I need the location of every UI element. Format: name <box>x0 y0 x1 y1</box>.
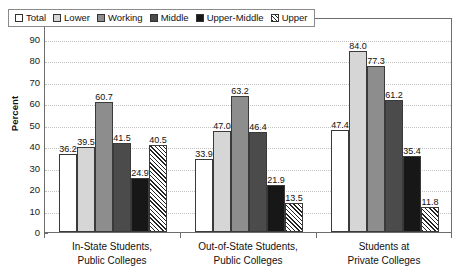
bar-value-label: 11.8 <box>422 197 439 207</box>
bar[interactable]: 60.7 <box>95 102 113 233</box>
category-label-line1: Out-of-State Students, <box>198 241 298 252</box>
bar-value-label: 84.0 <box>349 41 367 51</box>
bar-slot: 47.0 <box>213 17 231 232</box>
x-axis-category-labels: In-State Students,Public CollegesOut-of-… <box>44 240 452 276</box>
legend-item-label: Working <box>108 13 143 23</box>
bar[interactable]: 41.5 <box>113 143 131 232</box>
bar[interactable]: 39.5 <box>77 147 95 232</box>
legend-item-upper[interactable]: Upper <box>271 13 308 23</box>
bar[interactable]: 77.3 <box>367 66 385 232</box>
bar-slot: 39.5 <box>77 17 95 232</box>
bar-value-label: 13.5 <box>285 193 303 203</box>
bar-value-label: 36.2 <box>59 144 77 154</box>
x-axis-tick-mark <box>316 233 317 238</box>
bar-slot: 41.5 <box>113 17 131 232</box>
bar[interactable]: 46.4 <box>249 132 267 232</box>
bar-value-label: 33.9 <box>195 149 213 159</box>
x-axis-category-label: In-State Students,Public Colleges <box>44 240 180 267</box>
bar-groups: 36.239.560.741.524.940.533.947.063.246.4… <box>45 19 451 232</box>
bar-group: 47.484.077.361.235.411.8 <box>317 19 453 232</box>
bar-value-label: 24.9 <box>131 168 149 178</box>
x-axis-ticks <box>44 233 452 239</box>
bar-slot: 77.3 <box>367 17 385 232</box>
bar[interactable]: 35.4 <box>403 156 421 232</box>
legend-item-label: Middle <box>161 13 189 23</box>
bar-slot: 60.7 <box>95 17 113 232</box>
category-label-line2: Public Colleges <box>44 254 180 268</box>
bar-value-label: 47.0 <box>213 121 231 131</box>
y-axis-tick-label: 40 <box>14 142 40 152</box>
bar[interactable]: 84.0 <box>349 51 367 232</box>
bar-slot: 35.4 <box>403 17 421 232</box>
bar[interactable]: 36.2 <box>59 154 77 232</box>
bar[interactable]: 61.2 <box>385 100 403 232</box>
y-axis-tick-label: 0 <box>14 228 40 238</box>
bar-value-label: 35.4 <box>403 146 421 156</box>
x-axis-tick-mark <box>451 233 452 238</box>
y-axis-tick-label: 90 <box>14 35 40 45</box>
bar-slot: 24.9 <box>131 17 149 232</box>
bar-slot: 36.2 <box>59 17 77 232</box>
bar[interactable]: 21.9 <box>267 185 285 232</box>
y-axis-tick-label: 80 <box>14 56 40 66</box>
legend-swatch-icon <box>15 14 23 22</box>
bar-slot: 13.5 <box>285 17 303 232</box>
bar-slot: 40.5 <box>149 17 167 232</box>
bar-value-label: 63.2 <box>231 86 249 96</box>
x-axis-tick-mark <box>44 233 45 238</box>
y-axis-tick-labels: 0102030405060708090100 <box>14 18 40 233</box>
bar-slot: 21.9 <box>267 17 285 232</box>
legend-item-total[interactable]: Total <box>15 13 46 23</box>
category-label-line2: Private Colleges <box>316 254 452 268</box>
bar[interactable]: 13.5 <box>285 203 303 232</box>
y-axis-tick-label: 70 <box>14 78 40 88</box>
y-axis-tick-label: 60 <box>14 99 40 109</box>
y-axis-tick-label: 10 <box>14 207 40 217</box>
bar-slot: 61.2 <box>385 17 403 232</box>
bar-value-label: 61.2 <box>385 90 403 100</box>
x-axis-category-label: Out-of-State Students,Public Colleges <box>180 240 316 267</box>
legend-swatch-icon <box>53 14 61 22</box>
bar-slot: 46.4 <box>249 17 267 232</box>
x-axis-tick-mark <box>180 233 181 238</box>
legend-item-label: Total <box>26 13 46 23</box>
y-axis-tick-label: 50 <box>14 121 40 131</box>
legend-swatch-icon <box>271 14 279 22</box>
bar-value-label: 39.5 <box>77 137 95 147</box>
legend-item-middle[interactable]: Middle <box>150 13 189 23</box>
bar-value-label: 47.4 <box>331 120 349 130</box>
legend-item-lower[interactable]: Lower <box>53 13 90 23</box>
bar-value-label: 60.7 <box>95 92 113 102</box>
legend-item-label: Lower <box>64 13 90 23</box>
bar-value-label: 77.3 <box>367 56 385 66</box>
legend-swatch-icon <box>150 14 158 22</box>
x-axis-category-label: Students atPrivate Colleges <box>316 240 452 267</box>
plot-area: 36.239.560.741.524.940.533.947.063.246.4… <box>44 18 452 233</box>
bar-group: 36.239.560.741.524.940.5 <box>45 19 181 232</box>
bar[interactable]: 24.9 <box>131 178 149 232</box>
bar[interactable]: 40.5 <box>149 145 167 232</box>
bar[interactable]: 11.8 <box>421 207 439 232</box>
bar-slot: 84.0 <box>349 17 367 232</box>
category-label-line2: Public Colleges <box>180 254 316 268</box>
bar[interactable]: 63.2 <box>231 96 249 232</box>
bar-value-label: 21.9 <box>267 175 285 185</box>
bar-slot: 11.8 <box>421 17 439 232</box>
legend-swatch-icon <box>97 14 105 22</box>
legend-item-upper-middle[interactable]: Upper-Middle <box>196 13 264 23</box>
y-axis-tick-label: 20 <box>14 185 40 195</box>
bar[interactable]: 47.0 <box>213 131 231 232</box>
category-label-line1: Students at <box>359 241 410 252</box>
bar-value-label: 46.4 <box>249 122 267 132</box>
bar[interactable]: 33.9 <box>195 159 213 232</box>
bar-group: 33.947.063.246.421.913.5 <box>181 19 317 232</box>
bar-slot: 47.4 <box>331 17 349 232</box>
legend-swatch-icon <box>196 14 204 22</box>
legend-item-label: Upper <box>282 13 308 23</box>
bar[interactable]: 47.4 <box>331 130 349 232</box>
legend-item-label: Upper-Middle <box>207 13 264 23</box>
category-label-line1: In-State Students, <box>72 241 152 252</box>
legend-item-working[interactable]: Working <box>97 13 143 23</box>
bar-value-label: 40.5 <box>149 135 167 145</box>
legend: TotalLowerWorkingMiddleUpper-MiddleUpper <box>8 9 315 27</box>
